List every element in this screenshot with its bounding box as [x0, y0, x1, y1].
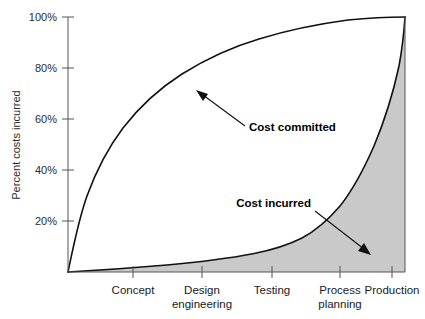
- y-tick-label-40: 40%: [35, 164, 57, 176]
- cost-commitment-chart: 100% 80% 60% 40% 20% Percent costs incur…: [0, 0, 425, 319]
- y-axis-title: Percent costs incurred: [10, 90, 22, 199]
- x-label-production: Production: [365, 284, 420, 296]
- x-label-process: Process: [319, 284, 361, 296]
- y-tick-label-60: 60%: [35, 113, 57, 125]
- x-label-design: Design: [184, 284, 220, 296]
- x-label-planning: planning: [318, 298, 361, 310]
- y-tick-label-20: 20%: [35, 215, 57, 227]
- y-tick-label-80: 80%: [35, 62, 57, 74]
- x-label-concept: Concept: [112, 284, 156, 296]
- y-tick-label-100: 100%: [29, 11, 57, 23]
- cost-incurred-annotation: Cost incurred: [236, 197, 311, 209]
- cost-committed-annotation: Cost committed: [249, 121, 336, 133]
- x-label-testing: Testing: [254, 284, 290, 296]
- x-label-engineering: engineering: [172, 298, 232, 310]
- chart-canvas: 100% 80% 60% 40% 20% Percent costs incur…: [0, 0, 425, 319]
